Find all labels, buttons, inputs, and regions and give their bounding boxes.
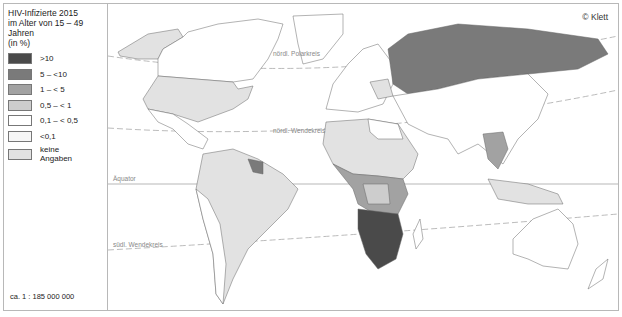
legend-title: HIV-Infizierte 2015 im Alter von 15 – 49… [8, 8, 102, 48]
tropic-south-label: südl. Wendekreis [113, 241, 163, 248]
legend-panel: HIV-Infizierte 2015 im Alter von 15 – 49… [3, 3, 108, 311]
europe [326, 44, 393, 112]
legend-items: >10 5 – <10 1 – < 5 0,5 – < 1 0,1 – < 0,… [8, 51, 102, 164]
world-map: nördl. Polarkreis nördl. Wendekreis Äqua… [108, 4, 618, 310]
canada [158, 19, 283, 82]
legend-item: 0,1 – < 0,5 [8, 113, 102, 129]
legend-item: 1 – < 5 [8, 82, 102, 98]
swatch-0-1-0-5 [8, 115, 32, 126]
thailand-region [483, 132, 508, 169]
swatch-under-0-1 [8, 131, 32, 142]
tropic-north-label: nördl. Wendekreis [273, 127, 326, 134]
legend-item: 5 – <10 [8, 67, 102, 83]
madagascar [413, 219, 423, 249]
map-scale: ca. 1 : 185 000 000 [10, 292, 74, 301]
indonesia [488, 179, 563, 204]
legend-item: keine Angaben [8, 144, 102, 164]
copyright-label: © Klett [582, 12, 608, 22]
equator-label: Äquator [113, 175, 137, 183]
legend-item: >10 [8, 51, 102, 67]
new-zealand [588, 259, 608, 289]
swatch-over-10 [8, 53, 32, 64]
world-map-svg: nördl. Polarkreis nördl. Wendekreis Äqua… [108, 4, 618, 310]
legend-item: 0,5 – < 1 [8, 98, 102, 114]
swatch-5-10 [8, 69, 32, 80]
swatch-no-data [8, 149, 32, 160]
legend-item: <0,1 [8, 129, 102, 145]
drc [363, 184, 390, 204]
southern-africa [358, 209, 403, 269]
swatch-0-5-1 [8, 100, 32, 111]
arctic-circle-label: nördl. Polarkreis [273, 50, 321, 57]
swatch-1-5 [8, 84, 32, 95]
